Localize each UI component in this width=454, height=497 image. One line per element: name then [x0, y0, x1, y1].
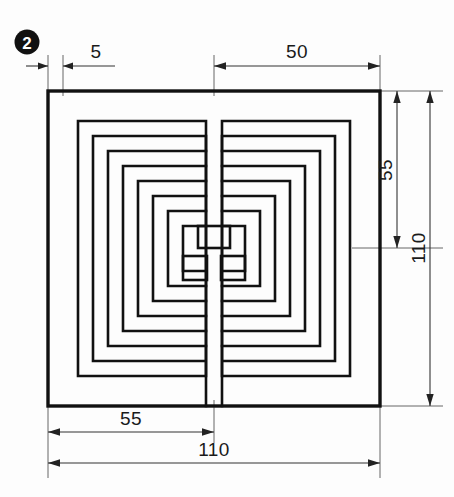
arrow-55-right-bottom	[393, 236, 400, 248]
concentric-rings-right	[222, 121, 350, 406]
technical-drawing-canvas: 5 50 55 110 55 110 2	[0, 0, 454, 497]
arrow-55-bottom-right	[202, 428, 214, 435]
ring-right-5	[222, 181, 290, 316]
dim-label-right-full: 110	[408, 232, 429, 264]
ring-right-1	[222, 121, 350, 406]
ring-left-5	[138, 181, 206, 316]
ring-left-1	[78, 121, 206, 406]
arrow-55-bottom-left	[48, 428, 60, 435]
dim-label-top-right: 50	[286, 41, 308, 62]
arrow-110-right-bottom	[426, 394, 433, 406]
dim-label-right-upper: 55	[375, 159, 396, 181]
arrow-5-left	[38, 62, 48, 69]
item-number-marker: 2	[15, 30, 40, 55]
concentric-rings	[78, 121, 206, 406]
ring-right-4	[222, 166, 305, 331]
dim-label-top-left: 5	[91, 41, 102, 62]
arrow-55-right-top	[393, 91, 400, 103]
marker-number: 2	[22, 34, 31, 53]
arrow-50-right	[368, 62, 380, 69]
ring-left-4	[123, 166, 206, 331]
dim-label-bottom-full: 110	[198, 439, 230, 460]
center-cell-bottom-right	[221, 256, 245, 280]
arrow-110-bottom-left	[48, 459, 60, 466]
labyrinth-figure	[48, 91, 380, 406]
arrow-50-left	[214, 62, 226, 69]
center-cell-top	[198, 226, 230, 248]
dim-label-bottom-left: 55	[120, 408, 142, 429]
drawing-page: 5 50 55 110 55 110 2	[0, 0, 454, 497]
arrow-5-right	[63, 62, 73, 69]
arrow-110-bottom-right	[368, 459, 380, 466]
center-cell-bottom-left	[183, 256, 207, 280]
arrow-110-right-top	[426, 91, 433, 103]
